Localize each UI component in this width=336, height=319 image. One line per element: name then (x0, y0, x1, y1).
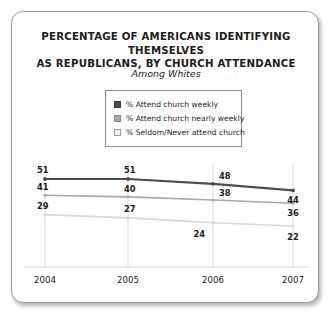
series-line-2 (45, 215, 293, 226)
data-label-2-2006: 24 (193, 229, 205, 239)
data-point-2-2007 (292, 225, 295, 228)
data-point-1-2004 (44, 194, 47, 197)
data-series-group (43, 177, 295, 227)
data-label-2-2007: 22 (287, 232, 299, 242)
data-label-0-2006: 48 (219, 171, 231, 181)
data-label-1-2004: 41 (37, 182, 49, 192)
x-tick-2005: 2005 (117, 275, 139, 285)
x-tick-2007: 2007 (282, 275, 304, 285)
data-label-2-2005: 27 (124, 204, 136, 214)
data-point-2-2004 (44, 213, 47, 216)
data-point-1-2006 (212, 199, 215, 202)
data-point-0-2004 (43, 177, 47, 181)
data-point-0-2005 (126, 177, 130, 181)
data-label-0-2004: 51 (37, 165, 49, 175)
x-tick-2004: 2004 (34, 275, 56, 285)
series-line-1 (45, 195, 293, 203)
data-point-2-2005 (127, 216, 130, 219)
data-point-1-2005 (127, 195, 130, 198)
data-label-0-2005: 51 (124, 165, 136, 175)
data-point-labels: 515148444140383629272422 (37, 165, 299, 242)
data-label-1-2007: 36 (287, 208, 299, 218)
data-point-0-2007 (291, 188, 295, 192)
data-label-1-2005: 40 (124, 184, 136, 194)
x-tick-2006: 2006 (202, 275, 224, 285)
data-point-2-2006 (212, 221, 215, 224)
data-label-0-2007: 44 (287, 195, 299, 205)
chart-card: PERCENTAGE OF AMERICANS IDENTIFYING THEM… (11, 11, 319, 303)
x-axis-tick-labels: 2004200520062007 (34, 275, 304, 285)
series-line-0 (45, 179, 293, 190)
line-chart-svg: 515148444140383629272422 200420052006200… (12, 12, 319, 303)
data-point-0-2006 (211, 182, 215, 186)
data-label-2-2004: 29 (37, 201, 49, 211)
data-label-1-2006: 38 (219, 188, 231, 198)
plot-area: 515148444140383629272422 200420052006200… (12, 12, 319, 303)
gridlines (45, 162, 293, 267)
